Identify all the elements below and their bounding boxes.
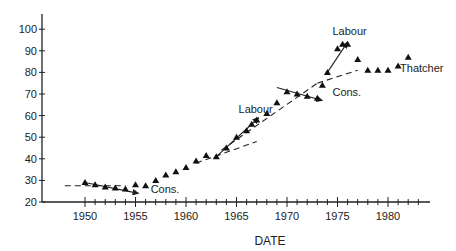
triangle-marker — [142, 182, 149, 188]
triangle-marker — [374, 67, 381, 73]
triangle-marker — [324, 69, 331, 75]
triangle-marker — [172, 168, 179, 174]
trend-lines — [65, 42, 358, 193]
y-tick-label: 20 — [25, 196, 37, 208]
x-tick-label: 1955 — [123, 210, 147, 222]
triangle-marker — [162, 172, 169, 178]
y-tick-label: 30 — [25, 174, 37, 186]
dashed-trend-line — [221, 83, 317, 150]
y-tick-label: 60 — [25, 110, 37, 122]
triangle-marker — [193, 157, 200, 163]
x-tick-label: 1980 — [376, 210, 400, 222]
triangle-marker — [385, 67, 392, 73]
triangle-marker — [253, 116, 260, 122]
triangle-marker — [233, 134, 240, 140]
annotation-label: Thatcher — [400, 62, 444, 74]
triangle-marker — [132, 181, 139, 187]
annotations: Cons.LabourCons.LabourThatcher — [151, 25, 444, 196]
y-tick-label: 100 — [19, 23, 37, 35]
y-tick-label: 80 — [25, 66, 37, 78]
triangle-marker — [344, 41, 351, 47]
x-tick-label: 1975 — [325, 210, 349, 222]
triangle-marker — [82, 179, 89, 185]
solid-trend-arrow — [85, 183, 139, 194]
x-tick-label: 1950 — [73, 210, 97, 222]
dashed-trend-line — [317, 70, 357, 83]
triangle-marker — [405, 54, 412, 60]
annotation-label: Labour — [332, 25, 367, 37]
triangle-marker — [203, 152, 210, 158]
annotation-label: Cons. — [151, 183, 180, 195]
x-axis-label: DATE — [254, 234, 285, 248]
y-tick-label: 50 — [25, 131, 37, 143]
axes: 2030405060708090100195019551960196519701… — [19, 14, 430, 222]
data-points — [82, 41, 412, 192]
y-tick-label: 90 — [25, 45, 37, 57]
triangle-marker — [152, 177, 159, 183]
x-tick-label: 1965 — [224, 210, 248, 222]
x-tick-label: 1960 — [174, 210, 198, 222]
chart-container: 2030405060708090100195019551960196519701… — [0, 0, 456, 251]
annotation-label: Labour — [239, 103, 274, 115]
scatter-chart: 2030405060708090100195019551960196519701… — [0, 0, 456, 251]
y-tick-label: 70 — [25, 88, 37, 100]
y-tick-label: 40 — [25, 153, 37, 165]
triangle-marker — [183, 164, 190, 170]
annotation-label: Cons. — [332, 86, 361, 98]
triangle-marker — [364, 67, 371, 73]
x-tick-label: 1970 — [275, 210, 299, 222]
triangle-marker — [122, 186, 129, 192]
triangle-marker — [354, 56, 361, 62]
triangle-marker — [273, 99, 280, 105]
